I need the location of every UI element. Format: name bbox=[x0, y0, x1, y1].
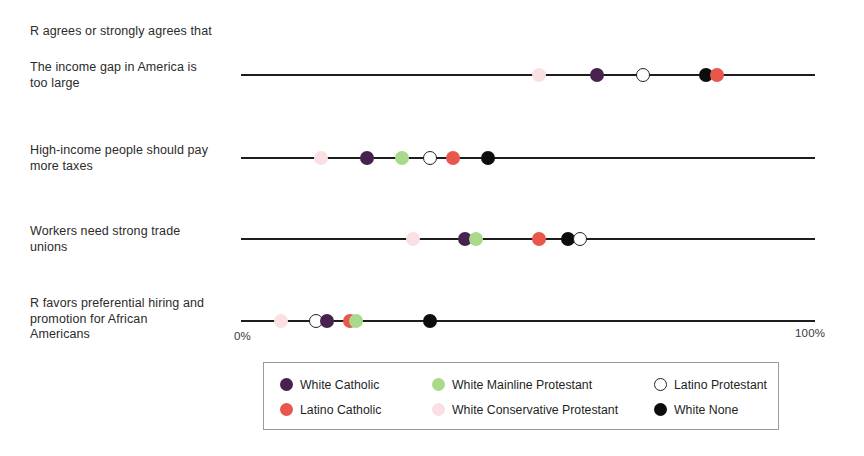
data-point-dot bbox=[573, 232, 587, 246]
legend-item-white_mainline_protestant[interactable]: White Mainline Protestant bbox=[432, 378, 654, 392]
legend-swatch-icon bbox=[432, 403, 445, 416]
legend-item-label: White Mainline Protestant bbox=[452, 378, 592, 392]
data-point-dot bbox=[274, 314, 288, 328]
chart-row-axis-line bbox=[241, 238, 815, 240]
data-point-dot bbox=[636, 68, 650, 82]
chart-row-label-line: unions bbox=[30, 240, 245, 256]
chart-row-label: The income gap in America istoo large bbox=[30, 60, 245, 91]
chart-header-note: R agrees or strongly agrees that bbox=[30, 24, 212, 38]
legend-item-label: White None bbox=[674, 403, 738, 417]
data-point-dot bbox=[446, 151, 460, 165]
data-point-dot bbox=[314, 151, 328, 165]
data-point-dot bbox=[710, 68, 724, 82]
legend-item-label: White Conservative Protestant bbox=[452, 403, 618, 417]
chart-row-label-line: more taxes bbox=[30, 159, 245, 175]
chart-row-label-line: The income gap in America is bbox=[30, 60, 245, 76]
legend-swatch-icon bbox=[654, 403, 667, 416]
legend: White CatholicWhite Mainline ProtestantL… bbox=[263, 362, 779, 430]
chart-row-label-line: promotion for African bbox=[30, 312, 245, 328]
chart-row-label-line: Workers need strong trade bbox=[30, 224, 245, 240]
chart-row-axis-line bbox=[241, 74, 815, 76]
legend-item-label: White Catholic bbox=[300, 378, 379, 392]
legend-item-latino_catholic[interactable]: Latino Catholic bbox=[280, 403, 432, 417]
legend-swatch-icon bbox=[280, 378, 293, 391]
chart-row-label: High-income people should paymore taxes bbox=[30, 143, 245, 174]
data-point-dot bbox=[349, 314, 363, 328]
chart-row-label: Workers need strong tradeunions bbox=[30, 224, 245, 255]
legend-grid: White CatholicWhite Mainline ProtestantL… bbox=[280, 372, 768, 422]
axis-tick-right: 100% bbox=[795, 327, 825, 339]
dot-plot-chart: R agrees or strongly agrees that The inc… bbox=[0, 0, 864, 456]
axis-tick-left: 0% bbox=[234, 330, 251, 342]
legend-item-white_conservative_protestant[interactable]: White Conservative Protestant bbox=[432, 403, 654, 417]
legend-item-latino_protestant[interactable]: Latino Protestant bbox=[654, 378, 768, 392]
data-point-dot bbox=[423, 314, 437, 328]
data-point-dot bbox=[360, 151, 374, 165]
chart-row-label-line: Americans bbox=[30, 327, 245, 343]
data-point-dot bbox=[395, 151, 409, 165]
data-point-dot bbox=[423, 151, 437, 165]
legend-item-white_none[interactable]: White None bbox=[654, 403, 768, 417]
data-point-dot bbox=[406, 232, 420, 246]
legend-swatch-icon bbox=[432, 378, 445, 391]
legend-item-label: Latino Catholic bbox=[300, 403, 381, 417]
legend-swatch-icon bbox=[654, 378, 667, 391]
chart-row-label-line: High-income people should pay bbox=[30, 143, 245, 159]
data-point-dot bbox=[320, 314, 334, 328]
legend-item-label: Latino Protestant bbox=[674, 378, 767, 392]
chart-row-label-line: too large bbox=[30, 76, 245, 92]
data-point-dot bbox=[532, 68, 546, 82]
data-point-dot bbox=[469, 232, 483, 246]
legend-swatch-icon bbox=[280, 403, 293, 416]
chart-row-label: R favors preferential hiring andpromotio… bbox=[30, 296, 245, 343]
chart-row-label-line: R favors preferential hiring and bbox=[30, 296, 245, 312]
data-point-dot bbox=[481, 151, 495, 165]
legend-item-white_catholic[interactable]: White Catholic bbox=[280, 378, 432, 392]
data-point-dot bbox=[532, 232, 546, 246]
data-point-dot bbox=[590, 68, 604, 82]
